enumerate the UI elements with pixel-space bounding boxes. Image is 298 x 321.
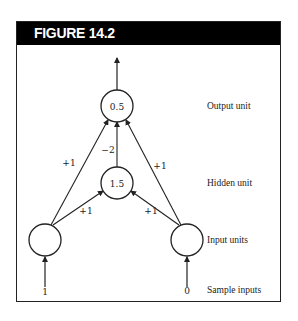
weight-right-input-to-hidden: +1 bbox=[144, 206, 157, 216]
hidden-node-value: 1.5 bbox=[110, 179, 125, 189]
weight-left-input-to-output: +1 bbox=[62, 158, 75, 168]
hidden-node: 1.5 bbox=[101, 167, 133, 199]
weight-left-input-to-hidden: +1 bbox=[79, 206, 92, 216]
label-output-unit: Output unit bbox=[207, 101, 251, 111]
weight-hidden-to-output: −2 bbox=[101, 145, 114, 155]
sample-input-left: 1 bbox=[42, 287, 48, 297]
input-node-left bbox=[29, 224, 61, 256]
sample-input-right: 0 bbox=[184, 286, 190, 296]
label-hidden-unit: Hidden unit bbox=[207, 178, 252, 188]
weight-right-input-to-output: +1 bbox=[153, 161, 166, 171]
neural-network-diagram: 0.5 1.5 +1 +1 −2 +1 +1 1 0 Output unit H… bbox=[0, 0, 298, 321]
output-node-value: 0.5 bbox=[110, 102, 125, 112]
label-sample-inputs: Sample inputs bbox=[207, 285, 261, 295]
output-node: 0.5 bbox=[101, 90, 133, 122]
label-input-units: Input units bbox=[207, 235, 248, 245]
input-node-right bbox=[171, 224, 203, 256]
